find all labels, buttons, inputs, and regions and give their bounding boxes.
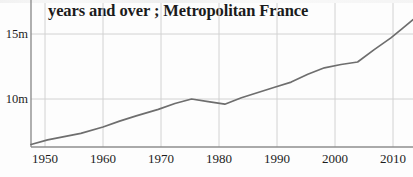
data-series-line — [31, 20, 413, 145]
x-tick-label-2000: 2000 — [312, 151, 358, 167]
x-tick-label-1970: 1970 — [138, 151, 184, 167]
y-tick-label-15m: 15m — [0, 27, 28, 42]
x-tick-label-2010: 2010 — [370, 151, 413, 167]
x-tick-label-1950: 1950 — [22, 151, 68, 167]
chart-figure: years and over ; Metropolitan France 15m… — [0, 0, 413, 177]
x-tick-label-1980: 1980 — [196, 151, 242, 167]
horizontal-gridlines — [31, 34, 413, 99]
y-tick-label-10m: 10m — [0, 92, 28, 107]
vertical-gridlines — [45, 3, 393, 147]
x-tick-label-1960: 1960 — [80, 151, 126, 167]
x-tick-label-1990: 1990 — [254, 151, 300, 167]
